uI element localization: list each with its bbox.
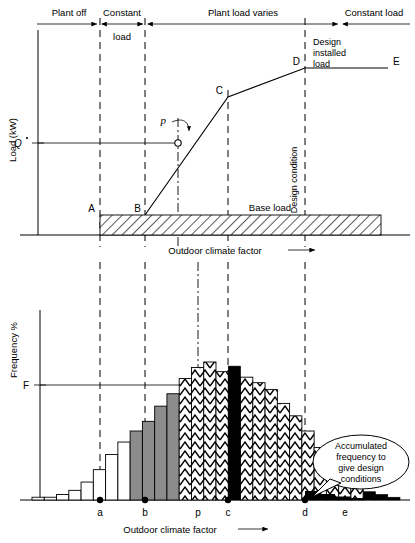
histogram-bar — [142, 421, 154, 500]
histogram-bar — [241, 377, 253, 500]
histogram-bar — [130, 431, 142, 500]
accumulated-tail-bar — [351, 498, 371, 500]
design-installed-load-line2: installed — [313, 48, 346, 58]
point-label-A: A — [88, 203, 95, 214]
histogram-bar — [204, 362, 216, 500]
histogram-bar — [265, 390, 277, 500]
diagram-svg: Plant off Constant load Plant load varie… — [0, 0, 415, 543]
callout-line-3: give design — [338, 463, 384, 473]
histogram-bar — [106, 454, 118, 500]
point-label-B: B — [134, 203, 141, 214]
p-callout-label: p — [160, 114, 167, 126]
accumulated-tail-bar — [335, 497, 351, 501]
x-tick-dot-b — [142, 497, 148, 503]
top-chart-x-axis-label: Outdoor climate factor — [168, 245, 261, 256]
design-installed-load-line1: Design — [313, 37, 341, 47]
band-label-plant-load-varies: Plant load varies — [208, 7, 278, 18]
histogram-bar — [57, 494, 69, 500]
callout-line-1: Accumulated — [335, 441, 387, 451]
band-label-plant-off: Plant off — [52, 7, 87, 18]
histogram-bar — [155, 406, 167, 500]
accumulated-tail-bar — [321, 494, 335, 500]
x-tick-label-p: p — [195, 507, 201, 518]
histogram-bar — [290, 416, 302, 500]
base-load-band — [100, 215, 381, 235]
accumulated-tail-bar — [371, 499, 397, 500]
q-dot-icon — [26, 137, 28, 139]
histogram-bar — [167, 394, 179, 500]
callout-line-2: frequency to — [336, 452, 386, 462]
band-label-constant: Constant — [103, 7, 141, 18]
band-label-constant-line2: load — [113, 31, 131, 42]
point-label-E: E — [393, 56, 400, 67]
base-load-label: Base load — [249, 202, 291, 213]
band-label-constant-load-right: Constant load — [345, 7, 404, 18]
bottom-chart-y-axis-label: Frequency % — [8, 321, 19, 378]
x-tick-dot-c — [225, 497, 231, 503]
histogram-bar — [253, 383, 265, 500]
x-tick-label-a: a — [97, 507, 103, 518]
callout-line-4: conditions — [341, 474, 382, 484]
x-tick-dot-d — [302, 497, 308, 503]
bottom-chart-x-axis-label: Outdoor climate factor — [123, 524, 216, 535]
histogram-bar — [302, 431, 314, 500]
top-chart-y-tick-label: Q — [14, 138, 22, 149]
x-tick-label-b: b — [142, 507, 148, 518]
histogram-bar — [44, 497, 56, 500]
bottom-chart-y-tick-label: F — [23, 380, 29, 391]
design-installed-load-line3: load — [313, 59, 330, 69]
histogram-bar — [81, 482, 93, 500]
histogram-bar — [118, 442, 130, 500]
x-tick-label-c: c — [226, 507, 231, 518]
x-tick-dot-a — [97, 497, 103, 503]
histogram-bar — [32, 497, 44, 500]
histogram-bar — [69, 490, 81, 500]
x-tick-label-d: d — [302, 507, 308, 518]
point-label-D: D — [293, 56, 300, 67]
histogram-bar — [191, 368, 203, 500]
point-label-C: C — [216, 85, 223, 96]
figure-root: Plant off Constant load Plant load varie… — [0, 0, 415, 543]
histogram-bar — [228, 366, 240, 500]
histogram-bar — [216, 372, 228, 500]
histogram-bar — [93, 470, 105, 500]
histogram-bar — [277, 403, 289, 500]
operating-point-p-marker — [175, 140, 181, 146]
histogram-bar — [179, 379, 191, 500]
x-tick-label-e: e — [342, 507, 348, 518]
